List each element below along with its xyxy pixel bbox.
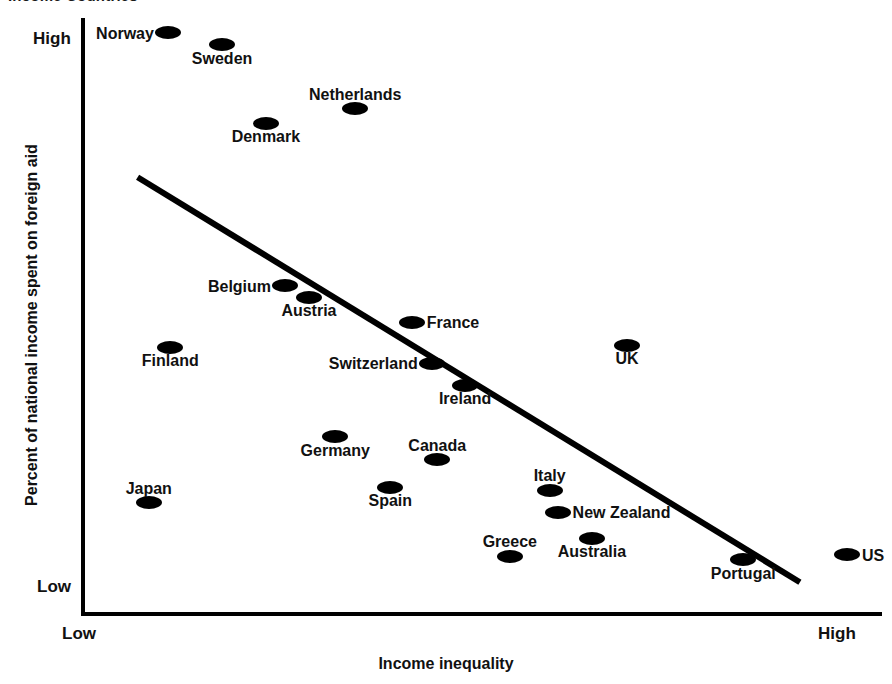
data-point-label: New Zealand	[573, 505, 671, 521]
y-axis-title: Percent of national income spent on fore…	[23, 90, 41, 560]
data-point-label: Greece	[483, 534, 537, 550]
data-point-marker	[545, 506, 571, 519]
data-point-label: Spain	[368, 493, 412, 509]
x-axis-tick-high: High	[818, 624, 856, 644]
data-point-marker	[136, 496, 162, 509]
data-point-marker	[497, 550, 523, 563]
data-point-label: Norway	[96, 26, 154, 42]
data-point-marker	[537, 484, 563, 497]
data-point-label: Ireland	[439, 391, 491, 407]
x-axis-line	[81, 612, 882, 616]
x-axis-tick-low: Low	[62, 624, 96, 644]
data-point-label: Sweden	[192, 51, 252, 67]
data-point-label: US	[862, 548, 884, 564]
data-point-label: Portugal	[711, 566, 776, 582]
data-point-label: France	[427, 315, 479, 331]
data-point-marker	[424, 453, 450, 466]
data-point-marker	[342, 102, 368, 115]
data-point-marker	[155, 26, 181, 39]
plot-area: NorwaySwedenNetherlandsDenmarkBelgiumAus…	[85, 18, 882, 612]
data-point-marker	[834, 548, 860, 561]
data-point-label: Japan	[126, 481, 172, 497]
data-point-marker	[419, 357, 445, 370]
data-point-label: Belgium	[208, 279, 271, 295]
data-point-label: Italy	[534, 468, 566, 484]
data-point-label: Netherlands	[309, 87, 401, 103]
chart-title: Income Countries	[8, 0, 138, 4]
data-point-label: Switzerland	[329, 356, 418, 372]
scatter-chart: Income Countries High Low Low High Perce…	[0, 0, 892, 684]
y-axis-tick-high: High	[33, 29, 71, 49]
data-point-label: Australia	[558, 544, 626, 560]
data-point-label: Austria	[281, 303, 336, 319]
data-point-label: Germany	[301, 443, 370, 459]
data-point-label: Finland	[142, 353, 199, 369]
data-point-marker	[272, 279, 298, 292]
y-axis-tick-low: Low	[37, 577, 71, 597]
trend-line	[85, 18, 882, 612]
data-point-label: UK	[615, 351, 638, 367]
data-point-marker	[399, 316, 425, 329]
data-point-label: Canada	[408, 438, 466, 454]
x-axis-title: Income inequality	[0, 655, 892, 673]
data-point-label: Denmark	[232, 129, 300, 145]
